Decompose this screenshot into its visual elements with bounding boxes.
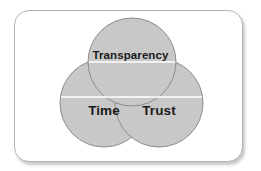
venn-diagram [0, 0, 261, 171]
diagram-canvas: Transparency Time Trust [0, 0, 261, 171]
venn-label-transparency: Transparency [0, 50, 261, 62]
venn-label-trust: Trust [106, 104, 212, 118]
